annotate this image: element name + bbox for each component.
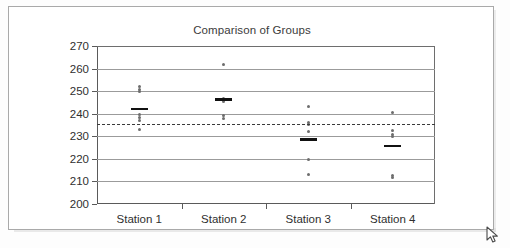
y-tick-mark-200 [92,204,97,205]
y-tick-label-240: 240 [70,108,89,120]
data-point [307,158,310,161]
group-mean-bar [131,108,148,111]
gridline-240 [97,114,435,115]
gridline-270 [97,46,435,47]
gridline-220 [97,159,435,160]
data-point [391,135,394,138]
data-point [307,130,310,133]
plot-area: 200210220230240250260270 Station 1Statio… [97,46,435,204]
data-point [391,129,394,132]
group-mean-bar [300,138,317,141]
plot-right-edge [434,46,435,204]
y-tick-label-220: 220 [70,153,89,165]
y-tick-mark-220 [92,159,97,160]
chart-figure: Comparison of Groups 2002102202302402502… [8,6,494,230]
y-tick-mark-270 [92,46,97,47]
y-tick-mark-230 [92,136,97,137]
x-tick-mark-2 [266,204,267,209]
y-tick-mark-210 [92,181,97,182]
gridline-230 [97,136,435,137]
y-axis-line [97,46,98,204]
data-point [307,105,310,108]
x-category-label-3: Station 3 [286,213,331,225]
y-tick-label-230: 230 [70,130,89,142]
x-tick-mark-3 [351,204,352,209]
chart-title: Comparison of Groups [9,24,495,36]
y-tick-label-210: 210 [70,175,89,187]
grand-mean-line [97,124,435,125]
gridline-210 [97,181,435,182]
data-point [138,128,141,131]
x-category-label-4: Station 4 [370,213,415,225]
y-tick-label-250: 250 [70,85,89,97]
y-tick-mark-240 [92,114,97,115]
y-tick-label-260: 260 [70,63,89,75]
x-category-label-1: Station 1 [117,213,162,225]
gridline-260 [97,69,435,70]
data-point [391,176,394,179]
group-mean-bar [384,145,401,148]
x-tick-mark-1 [182,204,183,209]
y-tick-mark-260 [92,69,97,70]
mouse-pointer-icon [486,226,500,244]
page-canvas: Comparison of Groups 2002102202302402502… [0,0,510,248]
data-point [222,117,225,120]
data-point [222,63,225,66]
data-point [138,90,141,93]
y-tick-label-270: 270 [70,40,89,52]
x-category-label-2: Station 2 [201,213,246,225]
data-point [138,119,141,122]
group-mean-bar [215,98,232,101]
y-tick-mark-250 [92,91,97,92]
data-point [307,173,310,176]
y-tick-label-200: 200 [70,198,89,210]
gridline-250 [97,91,435,92]
